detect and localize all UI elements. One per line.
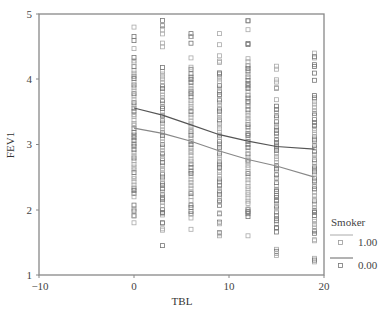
legend-title: Smoker xyxy=(331,216,366,228)
data-point xyxy=(189,148,193,152)
data-point xyxy=(132,71,136,75)
data-point xyxy=(189,212,193,216)
y-tick-3: 3 xyxy=(27,138,33,150)
data-point xyxy=(161,136,165,140)
y-axis-title: FEV1 xyxy=(4,132,16,158)
data-point xyxy=(132,214,136,218)
data-point xyxy=(275,210,279,214)
data-point xyxy=(132,130,136,134)
data-point xyxy=(313,187,317,191)
data-point xyxy=(132,47,136,51)
data-point xyxy=(313,164,317,168)
data-point xyxy=(246,60,250,64)
data-point xyxy=(246,57,250,61)
data-point xyxy=(161,227,165,231)
legend-marker-0 xyxy=(339,264,343,268)
legend-marker-1 xyxy=(339,241,343,245)
data-point xyxy=(132,101,136,105)
data-point xyxy=(132,136,136,140)
data-point xyxy=(189,32,193,36)
data-point xyxy=(132,35,136,39)
data-point xyxy=(161,72,165,76)
data-point xyxy=(161,119,165,123)
data-point xyxy=(313,56,317,60)
data-point xyxy=(132,165,136,169)
data-point xyxy=(313,71,317,75)
fev1-scatter-chart: 5 4 3 2 1 FEV1 −10 0 10 20 TBL Smoker 1.… xyxy=(0,0,388,316)
data-point xyxy=(275,155,279,159)
data-point xyxy=(189,151,193,155)
data-point xyxy=(313,203,317,207)
data-point xyxy=(189,87,193,91)
y-tick-5: 5 xyxy=(27,8,33,20)
data-point xyxy=(218,101,222,105)
data-point xyxy=(246,234,250,238)
data-point xyxy=(218,72,222,76)
data-point xyxy=(132,83,136,87)
data-point xyxy=(218,59,222,63)
plot-frame xyxy=(39,14,324,275)
data-point xyxy=(161,228,165,232)
data-point xyxy=(313,238,317,242)
data-point xyxy=(189,227,193,231)
data-point xyxy=(218,32,222,36)
data-point xyxy=(313,162,317,166)
x-tick-0: 0 xyxy=(131,280,137,292)
data-point xyxy=(132,203,136,207)
data-point xyxy=(132,133,136,137)
y-tick-2: 2 xyxy=(27,204,33,216)
data-point xyxy=(313,158,317,162)
data-point xyxy=(313,78,317,82)
data-point xyxy=(161,69,165,73)
data-point xyxy=(246,28,250,32)
data-point xyxy=(313,206,317,210)
data-point xyxy=(246,41,250,45)
data-point xyxy=(189,35,193,39)
data-point xyxy=(189,172,193,176)
x-axis: −10 0 10 20 TBL xyxy=(31,275,330,307)
data-point xyxy=(218,54,222,58)
x-axis-title: TBL xyxy=(172,295,193,307)
data-point xyxy=(275,214,279,218)
data-point xyxy=(132,74,136,78)
data-point xyxy=(189,41,193,45)
legend-label-0: 0.00 xyxy=(358,259,378,271)
legend: Smoker 1.00 0.00 xyxy=(330,216,378,271)
data-point xyxy=(246,43,250,47)
data-point xyxy=(189,78,193,82)
data-point xyxy=(132,39,136,43)
data-point xyxy=(246,114,250,118)
data-point xyxy=(246,66,250,70)
x-tick-10: 10 xyxy=(224,280,236,292)
data-point xyxy=(161,28,165,32)
data-point xyxy=(189,56,193,60)
data-point xyxy=(313,191,317,195)
data-point xyxy=(161,116,165,120)
data-point xyxy=(313,155,317,159)
data-point xyxy=(218,86,222,90)
data-point xyxy=(313,167,317,171)
data-point xyxy=(313,117,317,121)
data-point xyxy=(246,64,250,68)
data-point xyxy=(275,98,279,102)
data-point xyxy=(313,143,317,147)
data-point xyxy=(218,61,222,65)
data-point xyxy=(275,230,279,234)
data-point xyxy=(161,244,165,248)
data-point xyxy=(132,98,136,102)
data-point xyxy=(189,212,193,216)
data-point xyxy=(161,111,165,115)
data-point xyxy=(218,116,222,120)
data-point xyxy=(275,64,279,68)
x-tick-neg10: −10 xyxy=(31,280,49,292)
data-point xyxy=(132,168,136,172)
data-point xyxy=(132,25,136,29)
data-point xyxy=(275,207,279,211)
data-point xyxy=(161,19,165,23)
data-point xyxy=(313,239,317,243)
data-point xyxy=(275,204,279,208)
data-point xyxy=(189,89,193,93)
data-point xyxy=(246,215,250,219)
data-point xyxy=(189,35,193,39)
data-point xyxy=(132,221,136,225)
